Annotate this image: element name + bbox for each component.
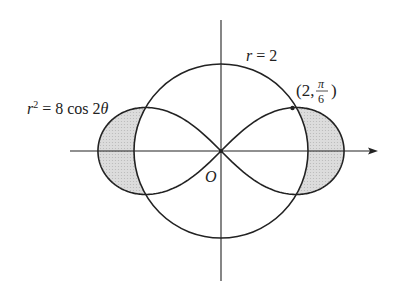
origin-label: O bbox=[205, 168, 217, 185]
intersection-label: (2, π 6 ) bbox=[296, 77, 337, 106]
intersection-point bbox=[290, 106, 294, 110]
svg-text:π: π bbox=[318, 77, 325, 91]
svg-text:(2,: (2, bbox=[296, 81, 314, 100]
polar-diagram: r = 2 r2 = 8 cos 2θ (2, π 6 ) O bbox=[0, 0, 397, 294]
circle-label: r = 2 bbox=[246, 47, 277, 64]
lemniscate-label: r2 = 8 cos 2θ bbox=[27, 99, 109, 117]
origin-point bbox=[219, 149, 223, 153]
svg-text:): ) bbox=[331, 81, 337, 100]
svg-text:6: 6 bbox=[318, 92, 324, 106]
